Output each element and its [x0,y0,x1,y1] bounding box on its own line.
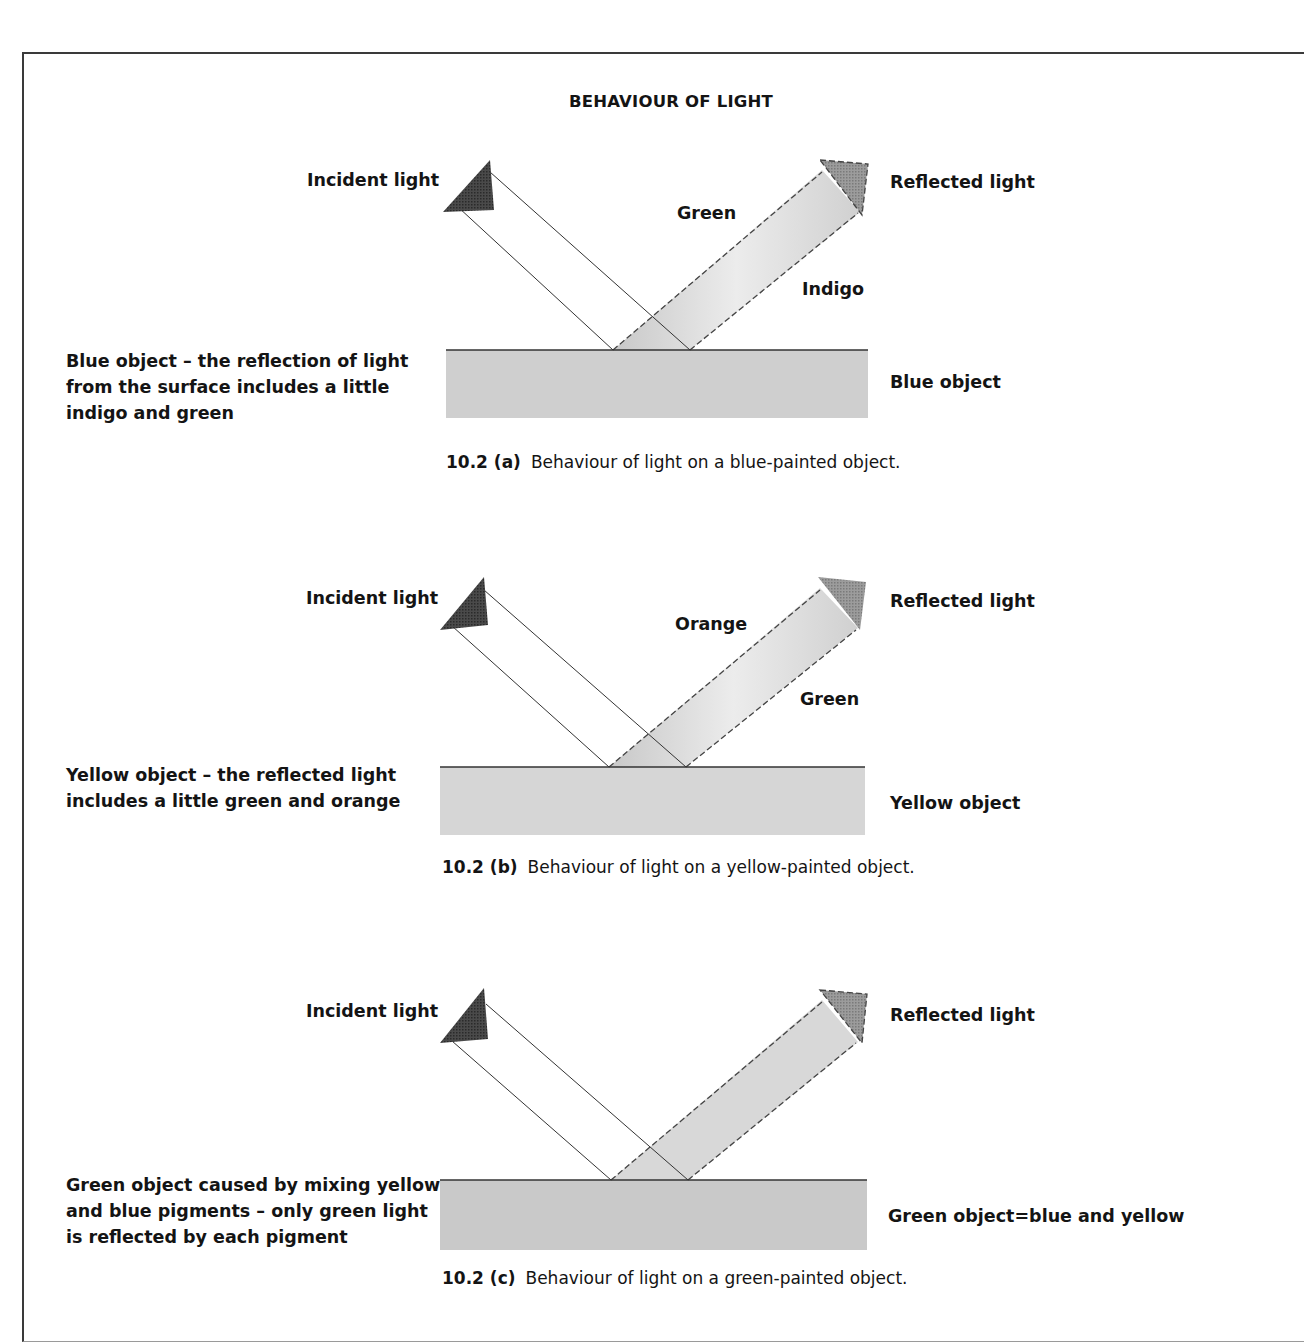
incident-light-label-a: Incident light [307,170,439,190]
side-note-a: Blue object – the reflection of light fr… [66,348,408,426]
incident-light-label-c: Incident light [306,1001,438,1021]
object-label-c: Green object=blue and yellow [888,1206,1184,1226]
panel-c-drawing [440,988,867,1250]
reflected-light-label-b: Reflected light [890,591,1035,611]
reflected-light-label-c: Reflected light [890,1005,1035,1025]
blue-object-surface [446,350,868,418]
caption-b: 10.2 (b)Behaviour of light on a yellow-p… [442,857,915,877]
caption-text-c: Behaviour of light on a green-painted ob… [525,1268,907,1288]
incident-arrowhead-icon [443,160,494,212]
beam-label-green-a: Green [677,203,736,223]
incident-arrowhead-icon [440,577,488,630]
reflected-beam [611,1000,858,1180]
incident-arrowhead-icon [440,988,488,1043]
caption-c: 10.2 (c)Behaviour of light on a green-pa… [442,1268,907,1288]
object-label-a: Blue object [890,372,1001,392]
caption-number-b: 10.2 (b) [442,857,518,877]
caption-text-a: Behaviour of light on a blue-painted obj… [531,452,901,472]
green-object-surface [440,1180,867,1250]
beam-label-orange-b: Orange [675,614,747,634]
incident-light-label-b: Incident light [306,588,438,608]
caption-a: 10.2 (a)Behaviour of light on a blue-pai… [446,452,901,472]
object-label-b: Yellow object [890,793,1020,813]
yellow-object-surface [440,767,865,835]
caption-number-a: 10.2 (a) [446,452,521,472]
caption-number-c: 10.2 (c) [442,1268,515,1288]
beam-label-indigo-a: Indigo [802,279,864,299]
reflected-beam [613,170,860,350]
beam-label-green-b: Green [800,689,859,709]
reflected-light-label-a: Reflected light [890,172,1035,192]
side-note-c: Green object caused by mixing yellow and… [66,1172,440,1250]
caption-text-b: Behaviour of light on a yellow-painted o… [528,857,915,877]
side-note-b: Yellow object – the reflected light incl… [66,762,400,814]
